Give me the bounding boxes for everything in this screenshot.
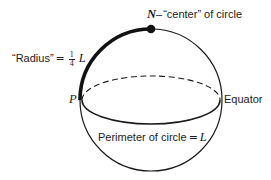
north-label: N–“center” of circle	[147, 8, 242, 21]
radius-equals: =	[56, 52, 65, 65]
radius-fraction: 14	[69, 51, 75, 68]
radius-arc	[80, 29, 151, 100]
perimeter-equals: =	[189, 131, 198, 144]
p-label: P	[69, 93, 77, 106]
perimeter-text: Perimeter of circle	[98, 131, 187, 143]
north-dash: –	[156, 8, 162, 20]
north-symbol: N	[147, 7, 156, 21]
perimeter-label: Perimeter of circle=L	[98, 131, 207, 144]
north-text: “center” of circle	[163, 8, 242, 20]
equator-back-dashed	[82, 76, 220, 100]
north-pole-point	[147, 25, 156, 34]
radius-text: “Radius”	[12, 52, 54, 64]
equator-label: Equator	[224, 94, 263, 105]
equator-front	[82, 100, 220, 124]
perimeter-variable: L	[200, 130, 207, 144]
sphere-figure	[0, 0, 271, 180]
radius-label: “Radius”=14L	[12, 51, 86, 68]
fraction-denominator: 4	[69, 60, 75, 68]
sphere-diagram: N–“center” of circle “Radius”=14L P Equa…	[0, 0, 271, 180]
radius-variable: L	[79, 51, 86, 65]
